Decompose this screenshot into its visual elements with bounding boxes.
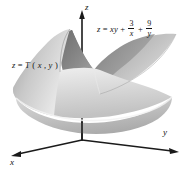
surface-equation-plus-1: + — [119, 24, 126, 34]
temperature-function-label: z = T ( x , y ) — [12, 60, 59, 70]
temperature-close-paren: ) — [54, 60, 59, 70]
temperature-open-paren: ( — [31, 60, 36, 70]
surface-graphic — [0, 0, 190, 177]
fraction-2-numerator: 9 — [146, 20, 152, 29]
temperature-comma: , — [43, 60, 47, 70]
fraction-2-denominator: y — [146, 29, 152, 38]
temperature-equals: = — [17, 60, 24, 70]
fraction-1-denominator: x — [129, 29, 135, 38]
x-axis-label: x — [10, 158, 14, 167]
surface-equation-equals: = — [102, 24, 109, 34]
z-axis-label: z — [85, 3, 89, 12]
surface-figure: z y x z = xy + 3 x + 9 y z = T ( x , y ) — [0, 0, 190, 177]
surface-mesh — [13, 29, 176, 134]
surface-equation-fraction-1: 3 x — [128, 20, 134, 38]
y-axis-label: y — [163, 128, 167, 137]
surface-equation-plus-2: + — [137, 24, 144, 34]
temperature-arg-y: y — [49, 60, 53, 70]
fraction-1-numerator: 3 — [128, 20, 134, 29]
surface-equation-lhs: z — [97, 24, 100, 34]
temperature-lhs: z — [12, 60, 15, 70]
surface-equation-term1: xy — [110, 24, 118, 34]
surface-equation-fraction-2: 9 y — [146, 20, 152, 38]
surface-equation-label: z = xy + 3 x + 9 y — [97, 20, 153, 38]
temperature-function-name: T — [25, 60, 30, 70]
temperature-arg-x: x — [38, 60, 42, 70]
